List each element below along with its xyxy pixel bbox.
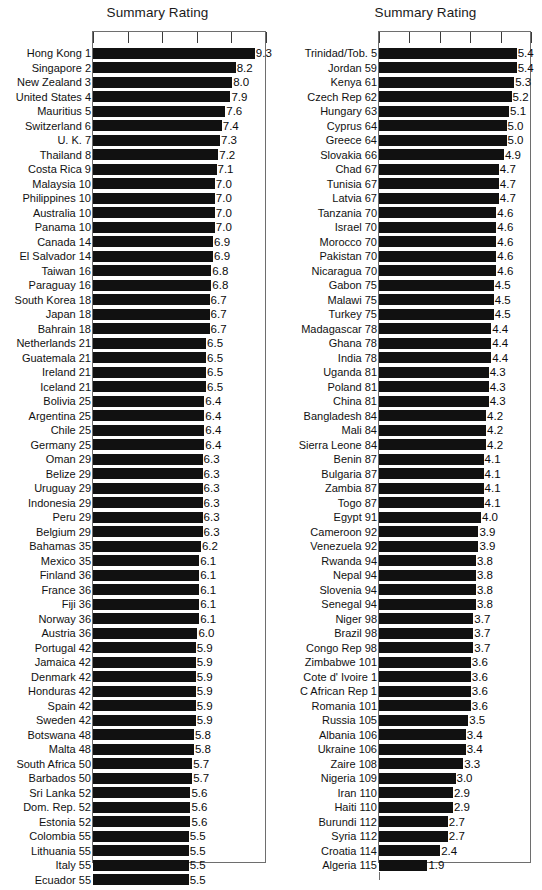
bar-row: Turkey 754.5 (379, 307, 530, 322)
bar-row: Morocco 704.6 (379, 235, 530, 250)
bar-value-label: 3.5 (469, 713, 485, 728)
bar (93, 512, 203, 523)
bar-category-label: Latvia 67 (332, 191, 377, 206)
bar (93, 367, 206, 378)
bar-value-label: 5.2 (513, 90, 529, 105)
bar-value-label: 3.4 (467, 742, 483, 757)
bar (379, 599, 476, 610)
bar (379, 773, 456, 784)
bar (379, 483, 484, 494)
bar-row: Slovakia 664.9 (379, 148, 530, 163)
bar-value-label: 4.4 (492, 351, 508, 366)
bar-row: Dom. Rep. 525.6 (93, 800, 265, 815)
bar-value-label: 3.6 (472, 684, 488, 699)
bar (379, 526, 478, 537)
bar-row: Trinidad/Tob. 55.4 (379, 46, 530, 61)
bar-value-label: 5.5 (190, 858, 206, 873)
bar-value-label: 5.8 (195, 728, 211, 743)
bar-category-label: Poland 81 (327, 380, 377, 395)
figure-page: Summary Ratings Summary Rating Hong Kong… (0, 0, 542, 890)
bar-category-label: Italy 55 (56, 858, 91, 873)
bar-row: France 366.1 (93, 583, 265, 598)
bar (93, 773, 192, 784)
bar-value-label: 5.9 (197, 684, 213, 699)
bar-value-label: 4.3 (490, 365, 506, 380)
bar (93, 729, 194, 740)
bar (93, 178, 215, 189)
bar-row: South Africa 505.7 (93, 757, 265, 772)
bar-row: Netherlands 216.5 (93, 336, 265, 351)
bar-row: New Zealand 38.0 (93, 75, 265, 90)
bar-value-label: 4.7 (500, 177, 516, 192)
bar-category-label: Argentina 25 (29, 409, 91, 424)
bar (93, 787, 190, 798)
bar-row: Algeria 1151.9 (379, 858, 530, 873)
bar (93, 454, 203, 465)
x-tick (531, 32, 532, 43)
bar (379, 642, 473, 653)
x-tick (128, 32, 129, 43)
bar (379, 584, 476, 595)
bar-value-label: 3.6 (472, 655, 488, 670)
bar (93, 164, 217, 175)
bar (93, 497, 203, 508)
bar-category-label: Fiji 36 (62, 597, 91, 612)
bar-value-label: 4.1 (485, 481, 501, 496)
bar-value-label: 5.4 (518, 46, 534, 61)
bar (93, 570, 199, 581)
bar-category-label: Sierra Leone 84 (299, 438, 377, 453)
bar (93, 874, 189, 885)
bar-row: Tunisia 674.7 (379, 177, 530, 192)
bar-category-label: Nigeria 109 (321, 771, 377, 786)
bar-row: Barbados 505.7 (93, 771, 265, 786)
bar-value-label: 5.5 (190, 829, 206, 844)
bar (93, 381, 206, 392)
bar-category-label: Chile 25 (51, 423, 91, 438)
bar-value-label: 3.6 (472, 699, 488, 714)
bar-row: Indonesia 296.3 (93, 496, 265, 511)
bar-category-label: Bahrain 18 (38, 322, 91, 337)
bar-category-label: Austria 36 (41, 626, 91, 641)
x-tick (409, 32, 410, 43)
bar (93, 758, 192, 769)
x-tick (266, 32, 267, 43)
bar-value-label: 6.3 (204, 525, 220, 540)
bar (93, 48, 255, 59)
bar (93, 91, 230, 102)
bar-category-label: Pakistan 70 (320, 249, 377, 264)
bar-value-label: 4.3 (490, 394, 506, 409)
bar-row: Bangladesh 844.2 (379, 409, 530, 424)
bar-category-label: Australia 10 (33, 206, 91, 221)
bar-value-label: 5.4 (518, 61, 534, 76)
bar-category-label: Russia 105 (322, 713, 377, 728)
bar-value-label: 9.3 (256, 46, 272, 61)
bar-row: Croatia 1142.4 (379, 844, 530, 859)
bar-row: Chad 674.7 (379, 162, 530, 177)
bar-category-label: Japan 18 (46, 307, 91, 322)
bar-category-label: Mexico 35 (41, 554, 91, 569)
bar (379, 309, 494, 320)
bar (379, 367, 489, 378)
bar-category-label: Romania 101 (312, 699, 377, 714)
bar (379, 91, 512, 102)
bar-value-label: 4.6 (497, 206, 513, 221)
bar (379, 294, 494, 305)
bar-value-label: 4.1 (485, 496, 501, 511)
bar (379, 628, 473, 639)
bar-category-label: Bangladesh 84 (304, 409, 377, 424)
bar-value-label: 7.4 (223, 119, 239, 134)
bar-value-label: 7.0 (216, 220, 232, 235)
bar-value-label: 6.4 (205, 438, 221, 453)
bar (379, 845, 440, 856)
bar-value-label: 6.3 (204, 452, 220, 467)
bar-category-label: Hong Kong 1 (27, 46, 91, 61)
bar-row: Uruguay 296.3 (93, 481, 265, 496)
bar-value-label: 6.7 (211, 322, 227, 337)
bar-row: Rwanda 943.8 (379, 554, 530, 569)
bar-value-label: 2.9 (454, 800, 470, 815)
bar (93, 599, 199, 610)
bar (93, 816, 190, 827)
bar-value-label: 2.4 (441, 844, 457, 859)
bar (379, 323, 491, 334)
bar-value-label: 3.4 (467, 728, 483, 743)
